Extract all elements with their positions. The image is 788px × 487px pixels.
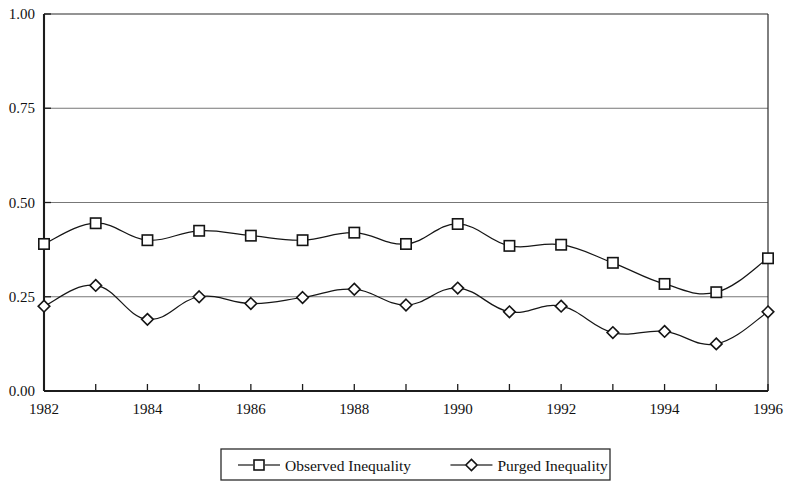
legend-label: Observed Inequality (285, 457, 411, 474)
square-marker-icon (39, 239, 49, 249)
diamond-marker-icon (555, 300, 567, 312)
x-tick-label: 1984 (132, 401, 163, 417)
square-marker-icon (254, 460, 264, 470)
diamond-marker-icon (400, 299, 412, 311)
square-marker-icon (91, 218, 101, 228)
square-marker-icon (711, 287, 721, 297)
y-tick-label: 1.00 (9, 6, 35, 22)
diamond-marker-icon (193, 291, 205, 303)
x-tick-label: 1982 (29, 401, 59, 417)
y-axis-tick-labels: 0.000.250.500.751.00 (9, 6, 35, 399)
diamond-marker-icon (90, 280, 102, 292)
diamond-marker-icon (710, 338, 722, 350)
line-chart: 0.000.250.500.751.00 1982198419861988199… (0, 0, 788, 487)
diamond-marker-icon (38, 300, 50, 312)
square-marker-icon (297, 235, 307, 245)
square-marker-icon (349, 227, 359, 237)
chart-legend: Observed InequalityPurged Inequality (221, 449, 610, 480)
square-marker-icon (142, 235, 152, 245)
x-tick-label: 1996 (753, 401, 784, 417)
y-tick-label: 0.25 (9, 289, 35, 305)
diamond-marker-icon (607, 327, 619, 339)
square-marker-icon (453, 219, 463, 229)
data-series-layer (38, 218, 774, 350)
x-axis-tick-labels: 19821984198619881990199219941996 (29, 401, 784, 417)
diamond-marker-icon (245, 298, 257, 310)
x-tick-label: 1992 (546, 401, 576, 417)
square-marker-icon (659, 279, 669, 289)
x-tick-label: 1994 (650, 401, 681, 417)
diamond-marker-icon (762, 306, 774, 318)
data-series (39, 218, 773, 297)
chart-figure: 0.000.250.500.751.00 1982198419861988199… (0, 0, 788, 487)
diamond-marker-icon (348, 283, 360, 295)
diamond-marker-icon (504, 306, 516, 318)
square-marker-icon (763, 253, 773, 263)
y-tick-label: 0.50 (9, 195, 35, 211)
x-tick-label: 1986 (236, 401, 267, 417)
diamond-marker-icon (659, 326, 671, 338)
y-tick-label: 0.75 (9, 100, 35, 116)
data-series (38, 280, 774, 350)
gridlines (44, 108, 768, 297)
square-marker-icon (246, 230, 256, 240)
square-marker-icon (194, 226, 204, 236)
diamond-marker-icon (142, 314, 154, 326)
legend-label: Purged Inequality (497, 457, 608, 474)
diamond-marker-icon (297, 292, 309, 304)
square-marker-icon (556, 240, 566, 250)
square-marker-icon (608, 258, 618, 268)
x-tick-label: 1990 (443, 401, 473, 417)
square-marker-icon (401, 239, 411, 249)
diamond-marker-icon (452, 282, 464, 294)
x-tick-label: 1988 (339, 401, 369, 417)
y-tick-label: 0.00 (9, 383, 35, 399)
square-marker-icon (504, 241, 514, 251)
series-line (44, 285, 768, 344)
